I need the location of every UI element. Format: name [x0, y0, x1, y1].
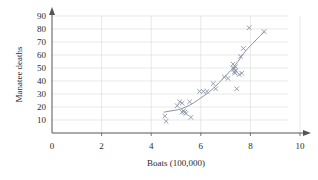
- regression-curve: [164, 32, 265, 113]
- x-tick-label: 4: [149, 141, 154, 151]
- data-point-marker: [213, 87, 218, 92]
- x-axis-title: Boats (100,000): [147, 158, 205, 168]
- data-point-marker: [187, 100, 192, 105]
- y-axis-arrow-icon: [49, 7, 55, 15]
- data-point-marker: [234, 87, 239, 92]
- data-point-marker: [205, 89, 210, 94]
- data-point-marker: [222, 75, 227, 80]
- x-tick-label: 2: [99, 141, 104, 151]
- data-point-marker: [247, 25, 252, 30]
- axes-group: [49, 7, 311, 136]
- y-tick-label: 80: [37, 24, 47, 34]
- x-axis-tick-labels: 0246810: [50, 141, 305, 151]
- y-tick-label: 70: [37, 37, 47, 47]
- y-tick-label: 20: [37, 102, 47, 112]
- y-axis-title: Manatee deaths: [14, 46, 24, 103]
- data-point-marker: [211, 81, 216, 86]
- data-point-marker: [226, 76, 231, 81]
- data-point-marker: [189, 115, 194, 120]
- vertical-gridlines: [102, 16, 300, 133]
- y-tick-label: 50: [37, 63, 47, 73]
- data-point-marker: [163, 114, 168, 119]
- data-point-marker: [262, 29, 267, 34]
- y-tick-label: 30: [37, 89, 47, 99]
- y-tick-label: 40: [37, 76, 47, 86]
- x-tick-label: 8: [248, 141, 253, 151]
- y-tick-label: 60: [37, 50, 47, 60]
- x-tick-label: 10: [296, 141, 306, 151]
- x-tick-label: 0: [50, 141, 55, 151]
- x-axis-arrow-icon: [303, 130, 311, 136]
- data-point-marker: [241, 46, 246, 51]
- data-point-markers: [163, 25, 267, 123]
- y-axis-tick-labels: 102030405060708090: [37, 11, 47, 125]
- chart-canvas: 102030405060708090 0246810 Boats (100,00…: [0, 0, 318, 180]
- x-tick-label: 6: [199, 141, 204, 151]
- data-point-marker: [164, 119, 169, 124]
- y-tick-label: 90: [37, 11, 47, 21]
- horizontal-gridlines: [52, 16, 288, 120]
- y-tick-label: 10: [37, 115, 47, 125]
- manatee-deaths-scatter-chart: 102030405060708090 0246810 Boats (100,00…: [0, 0, 318, 180]
- data-point-marker: [175, 103, 180, 108]
- data-point-marker: [184, 111, 189, 116]
